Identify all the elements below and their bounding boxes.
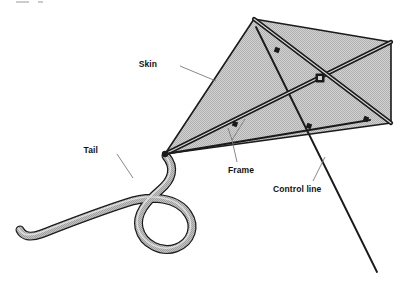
kite-diagram: Skin Tail Frame Control line bbox=[0, 0, 410, 293]
label-skin: Skin bbox=[139, 59, 157, 69]
label-tail: Tail bbox=[84, 145, 98, 155]
leader-tail bbox=[117, 154, 133, 178]
frame-center-hub bbox=[316, 74, 325, 83]
diagram-canvas: Skin Tail Frame Control line bbox=[0, 0, 410, 293]
nose-connector bbox=[162, 151, 168, 157]
label-control-line: Control line bbox=[273, 184, 322, 194]
label-frame: Frame bbox=[228, 165, 254, 175]
kite-tail bbox=[19, 155, 192, 250]
scan-artifact bbox=[16, 1, 43, 3]
leader-skin bbox=[180, 66, 216, 81]
leader-control-line bbox=[313, 157, 325, 181]
